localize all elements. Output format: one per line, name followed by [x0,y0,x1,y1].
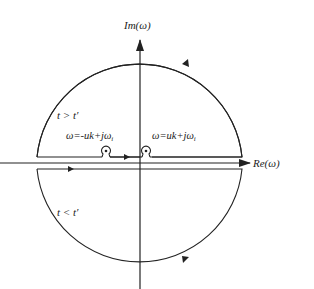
contour-diagram: Im(ω) Re(ω) t > t′ t < t′ ω=-uk+jωi ω=uk… [0,0,314,289]
lower-line-arrow-icon [68,166,74,172]
upper-arc-arrow-icon [182,59,189,67]
right-pole-label: ω=uk+jωi [152,130,196,143]
pole-left [102,146,111,157]
upper-line-arrow-icon [124,154,130,160]
imag-axis-label: Im(ω) [123,19,151,32]
real-axis-label: Re(ω) [252,157,280,170]
lower-arc-arrow-icon [182,256,189,263]
lower-region-label: t < t′ [57,206,79,218]
left-pole-label: ω=-uk+jωi [66,130,113,143]
upper-region-label: t > t′ [57,109,79,121]
pole-right [141,146,150,157]
